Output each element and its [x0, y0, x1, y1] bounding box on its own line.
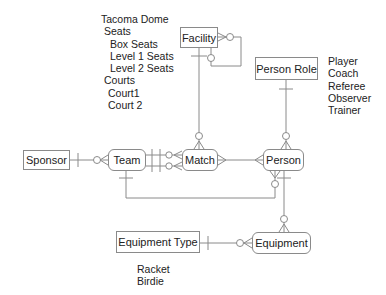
note-line: Level 2 Seats	[101, 62, 174, 74]
facility-match-relationship	[191, 48, 207, 149]
note-line: Tacoma Dome	[101, 13, 174, 25]
team-match-relationships	[146, 149, 182, 172]
facility-examples-note: Tacoma Dome Seats Box Seats Level 1 Seat…	[101, 13, 174, 111]
note-line: Level 1 Seats	[101, 50, 174, 62]
note-line: Court1	[101, 87, 174, 99]
note-line: Referee	[328, 80, 371, 92]
note-line: Box Seats	[101, 38, 174, 50]
person-equipment-relationship	[277, 171, 291, 232]
entity-team[interactable]: Team	[108, 149, 146, 171]
equipment-type-examples-note: Racket Birdie	[137, 263, 170, 288]
person-team-relationship	[119, 171, 280, 198]
match-person-relationship	[218, 155, 263, 165]
personrole-person-relationship	[279, 80, 293, 149]
note-line: Birdie	[137, 275, 170, 287]
entity-equipment-type[interactable]: Equipment Type	[116, 231, 200, 253]
entity-person[interactable]: Person	[263, 149, 304, 171]
entity-facility[interactable]: Facility	[180, 27, 218, 48]
entity-person-role[interactable]: Person Role	[255, 57, 318, 80]
note-line: Coach	[328, 67, 371, 79]
note-line: Seats	[101, 25, 174, 37]
entity-equipment[interactable]: Equipment	[252, 232, 311, 254]
entity-sponsor[interactable]: Sponsor	[23, 150, 70, 170]
note-line: Player	[328, 55, 371, 67]
note-line: Courts	[101, 74, 174, 86]
equipmenttype-equipment-relationship	[200, 236, 252, 250]
entity-match[interactable]: Match	[182, 149, 218, 171]
note-line: Observer	[328, 92, 371, 104]
note-line: Trainer	[328, 104, 371, 116]
sponsor-team-relationship	[70, 153, 108, 167]
note-line: Court 2	[101, 99, 174, 111]
person-role-examples-note: Player Coach Referee Observer Trainer	[328, 55, 371, 116]
note-line: Racket	[137, 263, 170, 275]
